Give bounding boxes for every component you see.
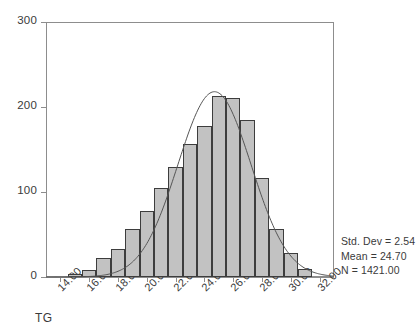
y-axis-tick-label: 200 (0, 99, 37, 111)
stats-mean: Mean = 24.70 (341, 249, 415, 264)
y-axis-tick (41, 22, 46, 23)
plot-frame (46, 22, 334, 277)
y-axis-tick (41, 192, 46, 193)
y-axis-tick-label: 300 (0, 14, 37, 26)
y-axis-tick-label: 0 (0, 269, 37, 281)
stats-std-dev: Std. Dev = 2.54 (341, 234, 415, 249)
y-axis-tick-label: 100 (0, 184, 37, 196)
stats-n: N = 1421.00 (341, 263, 415, 278)
stats-annotation: Std. Dev = 2.54 Mean = 24.70 N = 1421.00 (341, 234, 415, 278)
histogram-chart: 0100200300 14.0016.0018.0020.0022.0024.0… (0, 0, 418, 331)
y-axis-line (46, 22, 47, 277)
y-axis-tick (41, 107, 46, 108)
x-axis-title: TG (35, 311, 52, 325)
